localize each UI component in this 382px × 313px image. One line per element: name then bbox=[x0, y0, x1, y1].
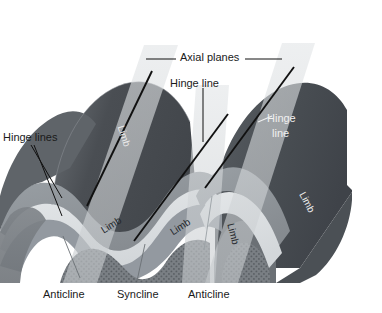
label-anticline-right: Anticline bbox=[188, 288, 230, 300]
label-hinge-line-right-top: Hinge bbox=[267, 112, 296, 124]
label-hinge-line-center: Hinge line bbox=[170, 77, 219, 89]
label-syncline-center: Syncline bbox=[117, 288, 159, 300]
label-hinge-line-right-bottom: line bbox=[272, 127, 289, 139]
label-anticline-left: Anticline bbox=[43, 288, 85, 300]
label-hinge-lines-left: Hinge lines bbox=[3, 131, 57, 143]
label-axial-planes: Axial planes bbox=[180, 51, 239, 63]
fold-diagram-svg bbox=[0, 0, 382, 313]
fold-diagram-figure: Axial planes Hinge line Hinge lines Hing… bbox=[0, 0, 382, 313]
